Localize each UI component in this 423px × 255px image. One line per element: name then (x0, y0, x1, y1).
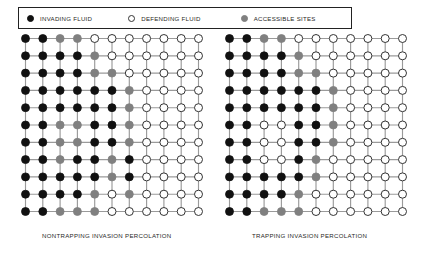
site-accessible (329, 104, 337, 112)
site-invading-fluid (22, 138, 30, 146)
site-defending-fluid (177, 52, 185, 60)
site-invading-fluid (108, 121, 116, 129)
site-invading-fluid (243, 173, 251, 181)
site-accessible (125, 104, 133, 112)
site-accessible (125, 190, 133, 198)
site-invading-fluid (56, 173, 64, 181)
site-invading-fluid (73, 190, 81, 198)
site-defending-fluid (381, 35, 389, 43)
site-defending-fluid (108, 190, 116, 198)
site-accessible (125, 138, 133, 146)
site-defending-fluid (195, 86, 203, 94)
site-defending-fluid (143, 52, 151, 60)
site-invading-fluid (39, 104, 47, 112)
site-invading-fluid (277, 173, 285, 181)
site-invading-fluid (73, 86, 81, 94)
site-defending-fluid (260, 156, 268, 164)
site-invading-fluid (73, 52, 81, 60)
gray-circle-icon (241, 15, 248, 22)
site-invading-fluid (91, 156, 99, 164)
site-invading-fluid (39, 156, 47, 164)
site-invading-fluid (22, 121, 30, 129)
site-invading-fluid (108, 138, 116, 146)
site-invading-fluid (226, 86, 234, 94)
site-defending-fluid (143, 121, 151, 129)
site-defending-fluid (364, 69, 372, 77)
site-invading-fluid (277, 69, 285, 77)
site-invading-fluid (277, 52, 285, 60)
site-invading-fluid (22, 190, 30, 198)
site-defending-fluid (195, 208, 203, 216)
site-invading-fluid (260, 52, 268, 60)
site-invading-fluid (73, 69, 81, 77)
site-accessible (108, 173, 116, 181)
site-invading-fluid (22, 52, 30, 60)
site-accessible (125, 86, 133, 94)
site-defending-fluid (177, 173, 185, 181)
site-defending-fluid (125, 52, 133, 60)
site-defending-fluid (125, 208, 133, 216)
site-defending-fluid (329, 190, 337, 198)
site-accessible (91, 52, 99, 60)
site-invading-fluid (226, 104, 234, 112)
site-invading-fluid (39, 138, 47, 146)
site-invading-fluid (125, 156, 133, 164)
legend-item-label: DEFENDING FLUID (141, 15, 200, 22)
site-invading-fluid (312, 86, 320, 94)
site-invading-fluid (243, 208, 251, 216)
site-accessible (91, 69, 99, 77)
site-defending-fluid (329, 52, 337, 60)
site-invading-fluid (39, 69, 47, 77)
site-invading-fluid (226, 138, 234, 146)
site-defending-fluid (364, 173, 372, 181)
site-accessible (295, 190, 303, 198)
site-accessible (329, 86, 337, 94)
site-invading-fluid (39, 190, 47, 198)
open-circle-icon (128, 15, 135, 22)
site-defending-fluid (399, 138, 407, 146)
site-defending-fluid (277, 138, 285, 146)
site-defending-fluid (277, 121, 285, 129)
site-invading-fluid (91, 86, 99, 94)
site-accessible (56, 138, 64, 146)
site-invading-fluid (226, 121, 234, 129)
site-invading-fluid (295, 86, 303, 94)
site-defending-fluid (399, 35, 407, 43)
site-accessible (73, 138, 81, 146)
site-accessible (277, 208, 285, 216)
site-defending-fluid (177, 156, 185, 164)
site-accessible (73, 121, 81, 129)
site-defending-fluid (347, 156, 355, 164)
site-defending-fluid (195, 121, 203, 129)
site-invading-fluid (73, 173, 81, 181)
site-defending-fluid (143, 138, 151, 146)
site-defending-fluid (160, 35, 168, 43)
site-accessible (56, 208, 64, 216)
site-defending-fluid (195, 156, 203, 164)
site-defending-fluid (260, 138, 268, 146)
site-invading-fluid (226, 69, 234, 77)
site-defending-fluid (312, 52, 320, 60)
site-defending-fluid (381, 104, 389, 112)
site-invading-fluid (39, 121, 47, 129)
site-defending-fluid (364, 121, 372, 129)
site-defending-fluid (160, 121, 168, 129)
site-defending-fluid (399, 190, 407, 198)
site-invading-fluid (226, 156, 234, 164)
site-invading-fluid (243, 52, 251, 60)
site-defending-fluid (381, 121, 389, 129)
site-defending-fluid (347, 138, 355, 146)
site-defending-fluid (347, 190, 355, 198)
site-defending-fluid (195, 35, 203, 43)
site-invading-fluid (22, 104, 30, 112)
panel-trapping-invasion-percolation (225, 34, 401, 210)
site-defending-fluid (143, 156, 151, 164)
site-invading-fluid (243, 156, 251, 164)
site-defending-fluid (347, 208, 355, 216)
panel-nontrapping-invasion-percolation (21, 34, 197, 210)
site-invading-fluid (226, 190, 234, 198)
site-invading-fluid (39, 86, 47, 94)
site-invading-fluid (277, 190, 285, 198)
site-invading-fluid (295, 121, 303, 129)
site-invading-fluid (73, 104, 81, 112)
